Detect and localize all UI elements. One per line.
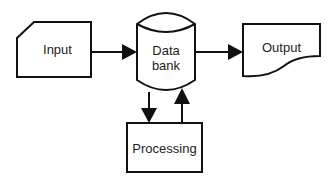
processing-label: Processing <box>127 141 202 157</box>
diagram-canvas: Input Data bank Output Processing <box>0 0 334 183</box>
databank-label-line1: Data <box>137 43 195 59</box>
databank-label-line2: bank <box>137 58 195 74</box>
input-label: Input <box>24 42 91 58</box>
arrowhead-right-icon <box>228 44 243 60</box>
arrowhead-down-icon <box>141 108 157 123</box>
arrowhead-right-icon <box>122 44 137 60</box>
output-label: Output <box>243 40 320 56</box>
arrowhead-up-icon <box>174 88 190 104</box>
